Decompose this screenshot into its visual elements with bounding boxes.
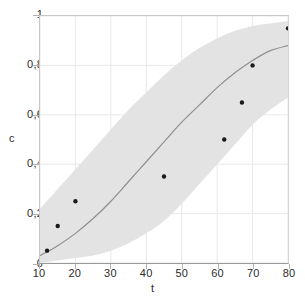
x-axis-tick-mark (39, 264, 40, 269)
x-axis-tick-mark (218, 264, 219, 269)
x-axis-tick-mark (253, 264, 254, 269)
x-axis-tick-label: 70 (238, 268, 268, 279)
x-axis-tick-label: 60 (203, 268, 233, 279)
data-point (56, 224, 60, 228)
x-axis-title: t (0, 283, 305, 294)
x-axis-tick-label: 40 (131, 268, 161, 279)
x-axis-tick-label: 80 (274, 268, 304, 279)
data-point (222, 137, 226, 141)
x-axis-tick-label: 10 (24, 268, 54, 279)
x-axis-tick-mark (182, 264, 183, 269)
x-axis-tick-mark (146, 264, 147, 269)
chart-container: 00,20,40,60,81 1020304050607080 c t (0, 0, 305, 307)
data-point (73, 199, 77, 203)
data-point (250, 63, 254, 67)
x-axis-tick-label: 50 (167, 268, 197, 279)
data-point (45, 248, 49, 252)
y-axis-title: c (9, 133, 15, 144)
x-axis-tick-mark (110, 264, 111, 269)
x-axis-tick-mark (75, 264, 76, 269)
x-axis-tick-label: 30 (95, 268, 125, 279)
plot-svg (40, 16, 288, 263)
data-point (240, 100, 244, 104)
plot-area (39, 15, 289, 264)
x-axis-tick-mark (289, 264, 290, 269)
data-point (162, 174, 166, 178)
x-axis-tick-label: 20 (60, 268, 90, 279)
